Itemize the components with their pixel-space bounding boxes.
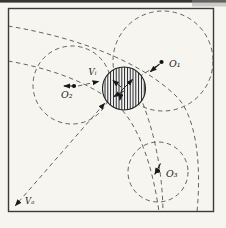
- diagram-canvas: O₁ O₂ O₃ Vᵢ Vₐ: [0, 0, 226, 228]
- obstacle3-label: O₃: [166, 168, 178, 179]
- scan-artifact-top-right: [192, 0, 226, 7]
- scanned-figure: O₁ O₂ O₃ Vᵢ Vₐ: [0, 0, 226, 228]
- obstacle2-point: [72, 84, 76, 88]
- obstacle2-label: O₂: [61, 89, 73, 100]
- v-a-label: Vₐ: [25, 196, 34, 206]
- v-i-label: Vᵢ: [89, 67, 97, 77]
- obstacle1-point: [159, 60, 163, 64]
- paper-background: [0, 0, 226, 228]
- obstacle1-label: O₁: [169, 58, 181, 69]
